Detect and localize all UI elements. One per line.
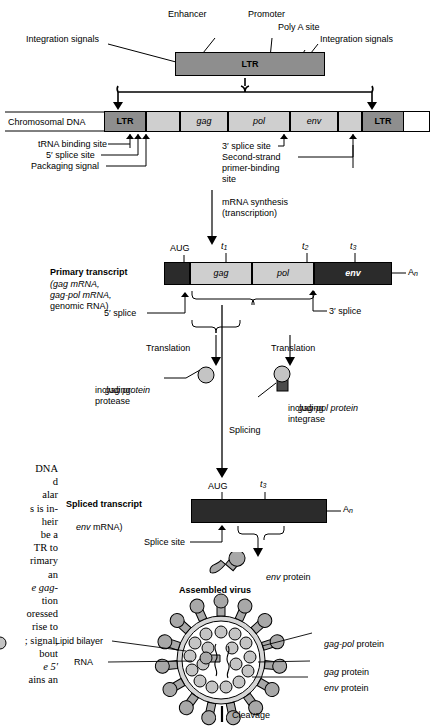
brace-gag-right [252,291,314,305]
label-lipid-bilayer: Lipid bilayer [55,636,103,647]
arrowhead-splicing [216,468,228,478]
label-gagpol-including: including [288,403,324,414]
arrowhead-ltr-left [113,102,123,110]
label-aug-spliced: AUG [208,481,228,492]
dna-segment-pol: pol [228,111,290,132]
label-spliced-transcript: Spliced transcript [66,499,142,510]
label-rna: RNA [74,657,93,668]
ltr-box: LTR [175,52,325,76]
label-primer-binding: primer-binding [222,163,280,174]
label-primary-sub-3: genomic RNA) [50,301,109,312]
label-t3-primary: t3 [350,241,356,254]
label-assembled-virus: Assembled virus [179,585,251,596]
label-virus-env: env protein [314,672,369,704]
primary-transcript-gag: gag [190,262,252,285]
brace-gag-inner-left [192,320,216,333]
label-mrna-synthesis: mRNA synthesis [222,197,288,208]
brace-gag-inner-right [216,320,240,333]
primary-transcript-5utr [164,262,190,285]
label-virus-gagpol: gag-pol protein [314,628,384,660]
brace-env-left [238,526,258,540]
dna-segment-spacer-right [338,111,362,132]
dna-segment-flank-right [404,111,430,132]
label-spliced-sub: env mRNA) [66,511,123,543]
label-t3-spliced: t3 [260,479,266,492]
label-polya-site: Poly A site [278,22,320,33]
label-trna-binding-site: tRNA binding site [38,139,107,150]
leader-3splice [313,305,327,311]
label-splice-site: Splice site [144,537,185,548]
label-translation-right: Translation [271,343,315,354]
brace-gag-left [192,291,254,305]
label-gagpol-integrase: integrase [288,414,325,425]
primary-transcript-pol: pol [252,262,314,285]
label-primary-sub-1: (gag mRNA, [50,279,100,290]
label-env-protein: env protein [256,561,311,593]
dna-segment-ltr-left: LTR [104,111,146,132]
label-5-splice: 5′ splice [104,308,136,319]
label-5-splice-site: 5′ splice site [46,150,95,161]
brace-mid-right [245,86,249,92]
dna-segment-gag: gag [180,111,228,132]
label-site: site [222,174,236,185]
dna-segment-ltr-right: LTR [362,111,404,132]
label-gag-protease: protease [95,396,130,407]
label-primary-transcript: Primary transcript [50,267,128,278]
label-gag-including: including [95,385,131,396]
label-promoter: Promoter [248,9,285,20]
brace-corner-right [372,86,373,92]
label-polya-spliced: An [343,504,353,517]
label-chromosomal-dna: Chromosomal DNA [8,117,86,128]
label-integration-signals-left: Integration signals [26,34,99,45]
dna-segment-env: env [290,111,338,132]
label-cleavage: Cleavage [232,710,270,721]
label-3-splice: 3′ splice [329,306,361,317]
label-3-splice-site: 3′ splice site [222,141,271,152]
primary-transcript-env: env [314,262,392,285]
callout-secondstrand [298,145,353,157]
label-splicing: Splicing [229,425,261,436]
callout-3splice [278,145,284,146]
gag-protein-glyph [190,362,230,392]
label-enhancer: Enhancer [168,9,207,20]
arrowhead-transcription [207,236,217,245]
label-t2: t2 [302,241,308,254]
spliced-transcript-bar [191,499,327,523]
brace-corner-left [117,86,118,92]
env-protein-glyph [206,552,252,586]
margin-body-text: DNA d alar s is in- heir be a TR to rima… [0,462,58,686]
label-polya-primary: An [408,267,418,280]
label-translation-left: Translation [146,343,190,354]
label-transcription: (transcription) [222,208,277,219]
arrowhead-3splice [309,290,317,295]
label-t1: t1 [221,241,227,254]
arrowhead-ltr-right [367,102,377,110]
arrowhead-5splice [181,292,189,297]
arrowhead-splice-site [218,525,226,530]
brace-env-right [264,526,284,540]
label-primary-sub-2: gag-pol mRNA, [50,290,112,301]
label-integration-signals-right: Integration signals [320,34,393,45]
callout-packaging [106,148,146,166]
dna-segment-spacer-left [146,111,180,132]
figure-canvas: LTR Integration signals Enhancer Promote… [0,0,433,727]
leader-integration-signals-left [108,44,176,62]
label-packaging-signal: Packaging signal [31,161,99,172]
label-second-strand: Second-strand [222,152,281,163]
label-aug-primary: AUG [170,243,190,254]
